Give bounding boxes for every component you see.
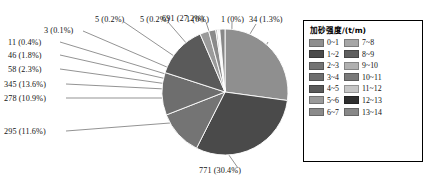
legend-item-8-9[interactable]: 8~9 [344, 50, 382, 59]
callout-771: 771 (30.4%) [199, 166, 241, 175]
callout-34: 34 (1.3%) [249, 15, 283, 24]
legend-item-4-5[interactable]: 4~5 [309, 84, 339, 93]
legend-swatch-icon [309, 108, 324, 116]
callout-5a: 5 (0.2%) [95, 15, 124, 24]
callout-5b: 5 (0.2%) [140, 15, 169, 24]
chart-area: 691 (27.2%) 771 (30.4%) 295 (11.6%) 278 … [0, 0, 300, 186]
legend-swatch-icon [309, 73, 324, 81]
callout-345: 345 (13.6%) [4, 80, 46, 89]
pie-chart-figure: 691 (27.2%) 771 (30.4%) 295 (11.6%) 278 … [0, 0, 426, 186]
callout-1a: 1 (0%) [186, 15, 209, 24]
legend-item-label: 13~14 [362, 108, 382, 117]
legend-item-label: 2~3 [327, 61, 339, 70]
callout-3: 3 (0.1%) [44, 26, 73, 35]
callout-11: 11 (0.4%) [8, 38, 41, 47]
legend-item-11-12[interactable]: 11~12 [344, 84, 382, 93]
legend: 加砂强度/(t/m) 0~11~22~33~44~55~66~7 7~88~99… [303, 20, 423, 162]
legend-item-label: 5~6 [327, 96, 339, 105]
legend-item-2-3[interactable]: 2~3 [309, 61, 339, 70]
legend-swatch-icon [309, 50, 324, 58]
legend-item-1-2[interactable]: 1~2 [309, 50, 339, 59]
callout-58: 58 (2.3%) [8, 65, 42, 74]
legend-swatch-icon [344, 50, 359, 58]
callout-46: 46 (1.8%) [8, 51, 42, 60]
legend-item-0-1[interactable]: 0~1 [309, 38, 339, 47]
legend-swatch-icon [344, 108, 359, 116]
legend-item-label: 7~8 [362, 38, 374, 47]
legend-item-label: 9~10 [362, 61, 378, 70]
legend-item-7-8[interactable]: 7~8 [344, 38, 382, 47]
legend-item-9-10[interactable]: 9~10 [344, 61, 382, 70]
legend-item-label: 3~4 [327, 73, 339, 82]
legend-item-6-7[interactable]: 6~7 [309, 108, 339, 117]
legend-item-label: 8~9 [362, 50, 374, 59]
callout-295: 295 (11.6%) [4, 127, 46, 136]
legend-item-10-11[interactable]: 10~11 [344, 73, 382, 82]
legend-item-label: 0~1 [327, 38, 339, 47]
legend-item-label: 11~12 [362, 84, 382, 93]
legend-swatch-icon [309, 62, 324, 70]
legend-swatch-icon [344, 73, 359, 81]
callout-278: 278 (10.9%) [4, 94, 46, 103]
legend-item-label: 1~2 [327, 50, 339, 59]
legend-item-label: 10~11 [362, 73, 382, 82]
legend-swatch-icon [309, 39, 324, 47]
legend-item-12-13[interactable]: 12~13 [344, 96, 382, 105]
legend-column-left: 0~11~22~33~44~55~66~7 [309, 38, 339, 117]
callout-1b: 1 (0%) [221, 15, 244, 24]
pie-slice-0-1[interactable] [225, 29, 288, 101]
legend-swatch-icon [344, 39, 359, 47]
legend-item-label: 12~13 [362, 96, 382, 105]
legend-item-label: 4~5 [327, 84, 339, 93]
legend-swatch-icon [344, 62, 359, 70]
legend-column-right: 7~88~99~1010~1111~1212~1313~14 [344, 38, 382, 117]
legend-swatch-icon [309, 85, 324, 93]
legend-swatch-icon [344, 96, 359, 104]
legend-swatch-icon [309, 96, 324, 104]
legend-title: 加砂强度/(t/m) [310, 24, 418, 35]
legend-item-13-14[interactable]: 13~14 [344, 108, 382, 117]
legend-swatch-icon [344, 85, 359, 93]
legend-item-3-4[interactable]: 3~4 [309, 73, 339, 82]
pie-slices [162, 29, 288, 155]
legend-item-label: 6~7 [327, 108, 339, 117]
legend-item-5-6[interactable]: 5~6 [309, 96, 339, 105]
